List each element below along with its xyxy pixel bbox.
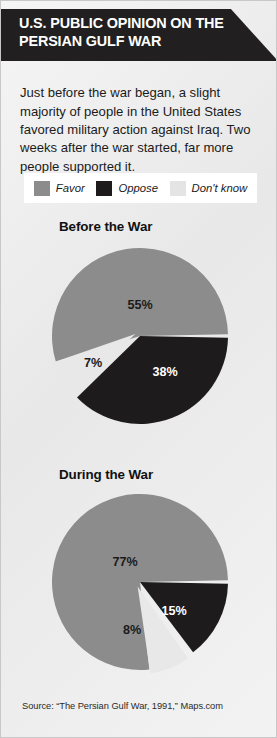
legend-label-oppose: Oppose [118, 182, 158, 194]
chart-title-during-the-war: During the War [59, 467, 153, 482]
legend-item-dont-know: Don't know [170, 181, 248, 196]
legend-swatch-favor [34, 181, 50, 196]
infographic-panel: U.S. PUBLIC OPINION ON THE PERSIAN GULF … [0, 0, 277, 738]
source-note: Source: “The Persian Gulf War, 1991,” Ma… [22, 701, 223, 711]
intro-paragraph: Just before the war began, a slight majo… [20, 84, 262, 176]
pie-label-dont-know-during: 8% [123, 623, 141, 637]
legend-label-dont-know: Don't know [192, 182, 248, 194]
pie-chart-before-the-war-svg: 55% 38% 7% [49, 245, 231, 427]
pie-label-oppose-before: 38% [152, 365, 177, 379]
pie-chart-during-the-war-svg: 77% 15% 8% [49, 491, 231, 673]
legend-label-favor: Favor [56, 182, 85, 194]
pie-chart-before-the-war: 55% 38% 7% [49, 245, 231, 427]
legend-swatch-dont-know [170, 181, 186, 196]
pie-chart-during-the-war: 77% 15% 8% [49, 491, 231, 673]
page-title: U.S. PUBLIC OPINION ON THE PERSIAN GULF … [19, 15, 234, 50]
pie-slices-before [52, 248, 228, 424]
pie-slices-during [52, 494, 228, 673]
chart-legend: Favor Oppose Don't know [24, 173, 257, 203]
legend-item-oppose: Oppose [96, 181, 158, 196]
chart-title-before-the-war: Before the War [59, 219, 152, 234]
pie-label-favor-before: 55% [127, 298, 152, 312]
pie-label-dont-know-before: 7% [84, 356, 102, 370]
pie-label-oppose-during: 15% [161, 604, 186, 618]
legend-item-favor: Favor [34, 181, 85, 196]
pie-label-favor-during: 77% [112, 555, 137, 569]
legend-swatch-oppose [96, 181, 112, 196]
